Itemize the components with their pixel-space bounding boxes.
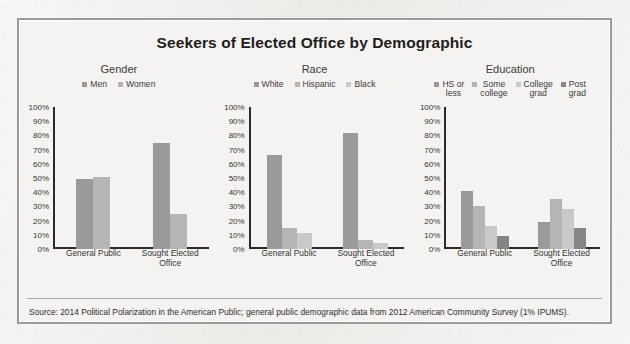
plot-area-gender: 100%90%80%70%60%50%40%30%20%10%0%General… bbox=[23, 107, 209, 269]
bar[interactable] bbox=[343, 133, 358, 249]
y-axis-tick: 70% bbox=[33, 145, 49, 154]
bar[interactable] bbox=[473, 206, 485, 249]
bar[interactable] bbox=[550, 199, 562, 249]
y-axis-tick: 50% bbox=[229, 174, 245, 183]
y-axis-tick: 0% bbox=[37, 245, 49, 254]
panel-gender: GenderMenWomen100%90%80%70%60%50%40%30%2… bbox=[21, 63, 217, 269]
y-axis-tick: 40% bbox=[229, 188, 245, 197]
bar-groups bbox=[446, 107, 600, 249]
bar[interactable] bbox=[76, 179, 93, 249]
bar-group bbox=[153, 107, 187, 249]
y-axis-tick: 30% bbox=[33, 202, 49, 211]
y-axis-tick: 0% bbox=[233, 245, 245, 254]
legend-swatch-icon bbox=[434, 82, 439, 87]
bar-groups bbox=[55, 107, 209, 249]
bar-group bbox=[76, 107, 110, 249]
bar[interactable] bbox=[574, 228, 586, 249]
legend-item[interactable]: HS or less bbox=[434, 80, 464, 98]
legend-swatch-icon bbox=[118, 82, 123, 87]
bar[interactable] bbox=[538, 222, 550, 249]
x-axis-labels: General PublicSought Elected Office bbox=[251, 249, 405, 269]
bar-group bbox=[538, 107, 586, 249]
legend-label: Men bbox=[90, 80, 107, 89]
legend-gender: MenWomen bbox=[21, 80, 217, 104]
y-axis-tick: 80% bbox=[424, 131, 440, 140]
legend-label: HS or less bbox=[442, 80, 464, 98]
bar-groups bbox=[251, 107, 405, 249]
bar[interactable] bbox=[153, 143, 170, 250]
legend-label: College grad bbox=[524, 80, 553, 98]
bar[interactable] bbox=[267, 155, 282, 249]
bar[interactable] bbox=[485, 226, 497, 249]
legend-item[interactable]: Hispanic bbox=[295, 80, 336, 89]
y-axis-tick: 40% bbox=[33, 188, 49, 197]
legend-education: HS or lessSome collegeCollege gradPost g… bbox=[412, 80, 608, 104]
legend-item[interactable]: Some college bbox=[472, 80, 507, 98]
panel-title-gender: Gender bbox=[21, 63, 217, 75]
panel-education: EducationHS or lessSome collegeCollege g… bbox=[412, 63, 608, 269]
bar[interactable] bbox=[461, 191, 473, 249]
y-axis-tick: 30% bbox=[424, 202, 440, 211]
legend-swatch-icon bbox=[516, 82, 521, 87]
legend-item[interactable]: Men bbox=[82, 80, 107, 89]
y-axis-tick: 10% bbox=[33, 230, 49, 239]
legend-label: Women bbox=[126, 80, 155, 89]
y-axis-tick: 40% bbox=[424, 188, 440, 197]
y-axis-tick: 60% bbox=[424, 159, 440, 168]
legend-swatch-icon bbox=[254, 82, 259, 87]
legend-item[interactable]: College grad bbox=[516, 80, 553, 98]
x-axis-label: General Public bbox=[56, 249, 130, 269]
legend-swatch-icon bbox=[346, 82, 351, 87]
legend-label: Post grad bbox=[569, 80, 586, 98]
legend-item[interactable]: Black bbox=[346, 80, 375, 89]
bar[interactable] bbox=[170, 214, 187, 250]
x-axis-labels: General PublicSought Elected Office bbox=[55, 249, 209, 269]
bar[interactable] bbox=[93, 177, 110, 249]
source-note: Source: 2014 Political Polarization in t… bbox=[29, 307, 600, 318]
y-axis: 100%90%80%70%60%50%40%30%20%10%0% bbox=[414, 107, 443, 249]
legend-swatch-icon bbox=[561, 82, 566, 87]
x-axis-label: General Public bbox=[252, 249, 326, 269]
y-axis-tick: 90% bbox=[33, 117, 49, 126]
y-axis-tick: 0% bbox=[429, 245, 441, 254]
x-axis-label: General Public bbox=[448, 249, 522, 269]
x-axis-labels: General PublicSought Elected Office bbox=[446, 249, 600, 269]
y-axis-tick: 10% bbox=[424, 230, 440, 239]
bar-group bbox=[461, 107, 509, 249]
y-axis-tick: 90% bbox=[229, 117, 245, 126]
footer-divider bbox=[27, 298, 602, 299]
legend-label: Hispanic bbox=[303, 80, 336, 89]
legend-item[interactable]: Women bbox=[118, 80, 155, 89]
plot-area-race: 100%90%80%70%60%50%40%30%20%10%0%General… bbox=[219, 107, 405, 269]
y-axis-tick: 100% bbox=[420, 103, 440, 112]
figure-title: Seekers of Elected Office by Demographic bbox=[19, 34, 610, 52]
bar-group bbox=[343, 107, 388, 249]
x-axis-label: Sought Elected Office bbox=[525, 249, 599, 269]
legend-race: WhiteHispanicBlack bbox=[217, 80, 413, 104]
plot-area-education: 100%90%80%70%60%50%40%30%20%10%0%General… bbox=[414, 107, 600, 269]
y-axis-tick: 70% bbox=[229, 145, 245, 154]
panel-title-education: Education bbox=[412, 63, 608, 75]
y-axis-tick: 30% bbox=[229, 202, 245, 211]
bar-group bbox=[267, 107, 312, 249]
y-axis-tick: 60% bbox=[229, 159, 245, 168]
y-axis-tick: 10% bbox=[229, 230, 245, 239]
legend-swatch-icon bbox=[472, 82, 477, 87]
bar[interactable] bbox=[297, 233, 312, 249]
y-axis-tick: 90% bbox=[424, 117, 440, 126]
y-axis: 100%90%80%70%60%50%40%30%20%10%0% bbox=[23, 107, 52, 249]
x-axis-label: Sought Elected Office bbox=[133, 249, 207, 269]
y-axis-tick: 80% bbox=[33, 131, 49, 140]
panel-race: RaceWhiteHispanicBlack100%90%80%70%60%50… bbox=[217, 63, 413, 269]
legend-item[interactable]: White bbox=[254, 80, 284, 89]
legend-label: White bbox=[262, 80, 284, 89]
y-axis: 100%90%80%70%60%50%40%30%20%10%0% bbox=[219, 107, 248, 249]
y-axis-tick: 100% bbox=[224, 103, 244, 112]
chart-panels: GenderMenWomen100%90%80%70%60%50%40%30%2… bbox=[19, 63, 610, 269]
bar[interactable] bbox=[282, 228, 297, 249]
figure-frame: Seekers of Elected Office by Demographic… bbox=[17, 18, 612, 324]
legend-swatch-icon bbox=[82, 82, 87, 87]
legend-item[interactable]: Post grad bbox=[561, 80, 586, 98]
x-axis-label: Sought Elected Office bbox=[329, 249, 403, 269]
bar[interactable] bbox=[562, 209, 574, 249]
